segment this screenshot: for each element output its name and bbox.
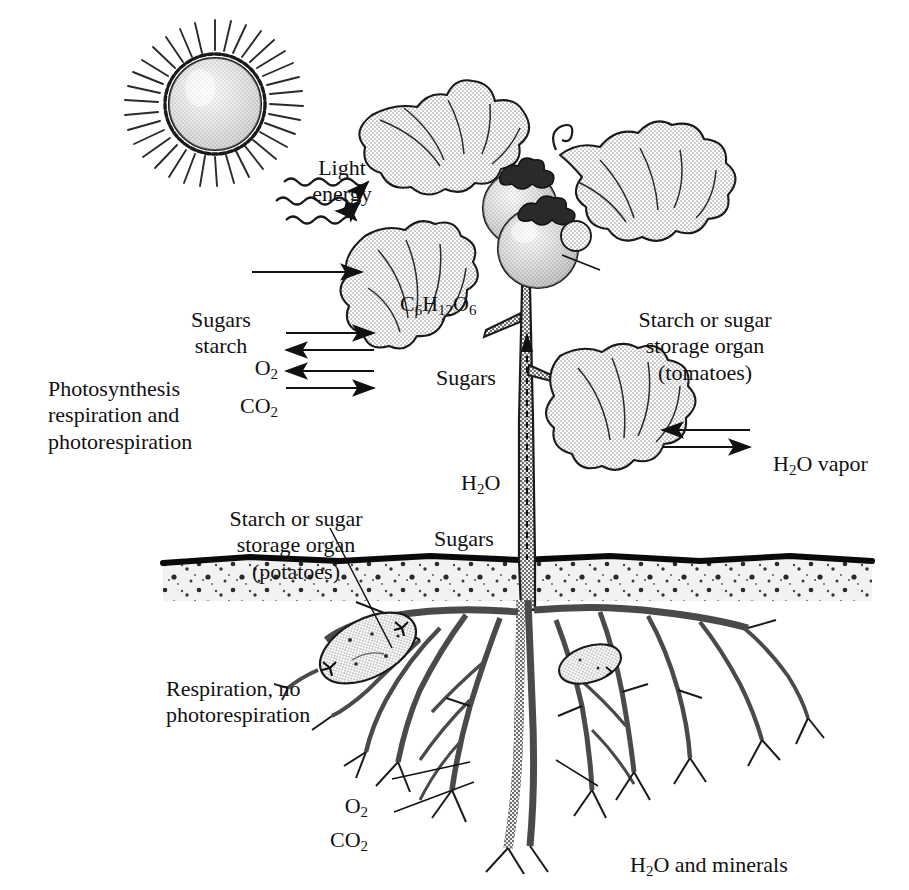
label-h2o-vapor: H2O vapor bbox=[762, 424, 868, 479]
label-starch-potatoes: Starch or sugar storage organ (potatoes) bbox=[196, 452, 396, 613]
diagram-canvas: Light energy Sugars starch Photosynthesi… bbox=[0, 0, 909, 890]
leader-line bbox=[394, 782, 474, 812]
stem bbox=[484, 243, 559, 610]
label-starch-tomatoes: Starch or sugar storage organ (tomatoes) bbox=[605, 253, 805, 414]
label-sugars-upper: Sugars bbox=[436, 365, 496, 392]
sun-icon bbox=[125, 20, 303, 186]
label-h2o-minerals: H2O and minerals enter through root hair… bbox=[608, 772, 838, 890]
label-co2-left: CO2 bbox=[196, 366, 278, 421]
label-co2-root: CO2 bbox=[286, 800, 368, 855]
label-light-energy: Light energy bbox=[300, 101, 384, 235]
label-h2o-stem: H2O bbox=[450, 443, 500, 498]
label-sugars-lower: Sugars bbox=[434, 526, 494, 553]
leader-line bbox=[392, 762, 470, 779]
label-h2o-minerals-line1: H2O and minerals bbox=[608, 826, 838, 890]
label-glucose-formula: C6H12O6 bbox=[389, 264, 476, 319]
label-respiration-no-photorespiration: Respiration, no photorespiration bbox=[166, 622, 376, 756]
